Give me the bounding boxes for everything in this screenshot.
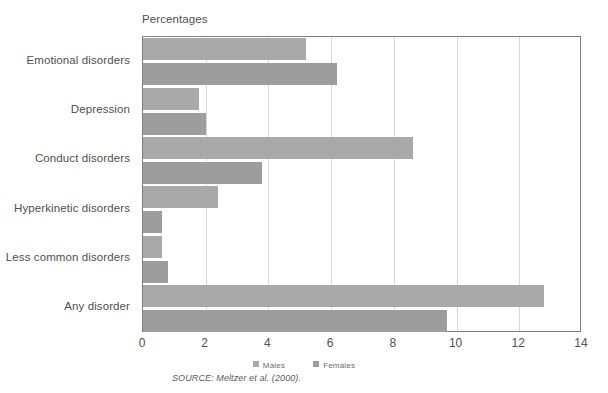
bar-females-1 bbox=[143, 113, 206, 135]
bar-females-5 bbox=[143, 310, 447, 332]
source-note: SOURCE: Meltzer et al. (2000). bbox=[172, 373, 301, 383]
x-tick-label-4: 8 bbox=[390, 336, 397, 350]
bar-males-1 bbox=[143, 88, 199, 110]
bar-males-4 bbox=[143, 236, 162, 258]
x-tick-label-0: 0 bbox=[139, 336, 146, 350]
chart-legend: MalesFemales bbox=[0, 360, 608, 370]
bar-females-4 bbox=[143, 261, 168, 283]
x-tick-label-1: 2 bbox=[201, 336, 208, 350]
legend-swatch-females bbox=[313, 361, 319, 367]
legend-item-females: Females bbox=[313, 360, 355, 369]
legend-label-females: Females bbox=[323, 361, 355, 370]
bar-males-5 bbox=[143, 285, 544, 307]
category-axis-labels: Emotional disordersDepressionConduct dis… bbox=[0, 36, 136, 332]
category-label-1: Depression bbox=[71, 103, 130, 115]
legend-swatch-males bbox=[253, 361, 259, 367]
category-label-0: Emotional disorders bbox=[26, 54, 130, 66]
category-label-3: Hyperkinetic disorders bbox=[14, 202, 130, 214]
bar-chart-figure: Percentages Emotional disordersDepressio… bbox=[0, 0, 608, 393]
legend-item-males: Males bbox=[253, 360, 285, 369]
axis-caption: Percentages bbox=[142, 13, 208, 25]
bar-females-3 bbox=[143, 211, 162, 233]
category-label-5: Any disorder bbox=[64, 300, 130, 312]
bar-females-2 bbox=[143, 162, 262, 184]
x-axis-tick-labels: 02468101214 bbox=[142, 336, 581, 354]
x-tick-label-5: 10 bbox=[449, 336, 462, 350]
x-tick-label-7: 14 bbox=[574, 336, 587, 350]
plot-area bbox=[142, 36, 581, 332]
x-tick-label-3: 6 bbox=[327, 336, 334, 350]
bar-males-3 bbox=[143, 186, 218, 208]
category-label-4: Less common disorders bbox=[6, 251, 130, 263]
x-tick-label-2: 4 bbox=[264, 336, 271, 350]
category-label-2: Conduct disorders bbox=[35, 152, 130, 164]
bars-layer bbox=[143, 37, 580, 331]
legend-label-males: Males bbox=[263, 361, 285, 370]
bar-males-0 bbox=[143, 38, 306, 60]
x-tick-label-6: 12 bbox=[512, 336, 525, 350]
bar-males-2 bbox=[143, 137, 413, 159]
bar-females-0 bbox=[143, 63, 337, 85]
